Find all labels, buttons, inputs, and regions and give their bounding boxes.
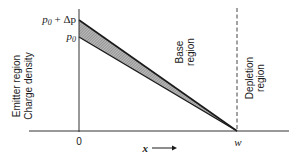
tick-w: w bbox=[234, 136, 242, 148]
depletion-region-label-line2: region bbox=[255, 64, 266, 92]
base-region-label-line2: region bbox=[185, 38, 196, 66]
base-region-label-line1: Base bbox=[174, 40, 185, 63]
x-axis-label: x bbox=[142, 142, 149, 154]
tick-p0: p0 bbox=[66, 30, 77, 44]
line-p0-plus-dp bbox=[79, 20, 237, 131]
tick-origin: 0 bbox=[76, 136, 82, 147]
charge-density-label: Charge density bbox=[23, 52, 34, 119]
depletion-region-label-line1: Depletion bbox=[244, 57, 255, 99]
emitter-region-label: Emitter region bbox=[11, 55, 22, 117]
tick-p0-plus-dp: p0 + Δp bbox=[41, 13, 76, 27]
x-direction-arrow-icon bbox=[152, 146, 177, 151]
charge-density-diagram: p0 + Δp p0 Emitter region Charge density… bbox=[0, 0, 299, 160]
line-p0 bbox=[79, 37, 237, 131]
